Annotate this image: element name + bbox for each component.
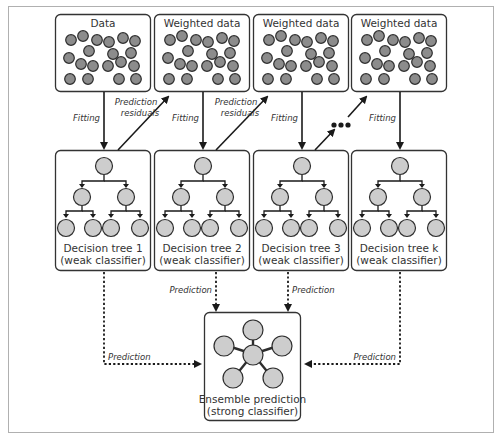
data-box-4: Weighted data: [352, 15, 447, 92]
tree-box-2: Decision tree 2(weak classifier): [155, 151, 250, 271]
residuals-label-2b: residuals: [221, 108, 260, 118]
data-box-title: Weighted data: [263, 17, 340, 29]
prediction-label-1: Prediction: [108, 352, 151, 362]
data-box-title: Weighted data: [164, 17, 241, 29]
data-box-2: Weighted data: [155, 15, 250, 92]
data-box-title: Weighted data: [361, 17, 438, 29]
fitting-label-1: Fitting: [73, 113, 101, 123]
prediction-label-3: Prediction: [292, 285, 335, 295]
tree-title: Decision tree k: [360, 242, 440, 254]
tree-box-3: Decision tree 3(weak classifier): [254, 151, 349, 271]
prediction-label-2: Prediction: [169, 285, 212, 295]
residuals-label-1a: Prediction: [115, 97, 158, 107]
tree-title: Decision tree 3: [261, 242, 340, 254]
ensemble-title: Ensemble prediction: [199, 393, 307, 405]
data-box-3: Weighted data: [254, 15, 349, 92]
fitting-label-3: Fitting: [271, 113, 299, 123]
tree-subtitle: (weak classifier): [159, 254, 244, 266]
boosting-diagram: DataWeighted dataWeighted dataWeighted d…: [0, 0, 502, 438]
fitting-label-4: Fitting: [369, 113, 397, 123]
tree-box-1: Decision tree 1(weak classifier): [56, 151, 151, 271]
tree-title: Decision tree 2: [162, 242, 241, 254]
fitting-label-2: Fitting: [172, 113, 200, 123]
tree-subtitle: (weak classifier): [60, 254, 145, 266]
prediction-label-4: Prediction: [353, 352, 396, 362]
data-box-1: Data: [56, 15, 151, 92]
ellipsis-dots: [331, 122, 350, 127]
tree-title: Decision tree 1: [63, 242, 142, 254]
ensemble-subtitle: (strong classifier): [207, 405, 298, 417]
residuals-label-2a: Prediction: [215, 97, 258, 107]
tree-subtitle: (weak classifier): [356, 254, 441, 266]
tree-subtitle: (weak classifier): [258, 254, 343, 266]
residuals-label-1b: residuals: [121, 108, 160, 118]
data-box-title: Data: [90, 17, 115, 29]
tree-box-4: Decision tree k(weak classifier): [352, 151, 447, 271]
